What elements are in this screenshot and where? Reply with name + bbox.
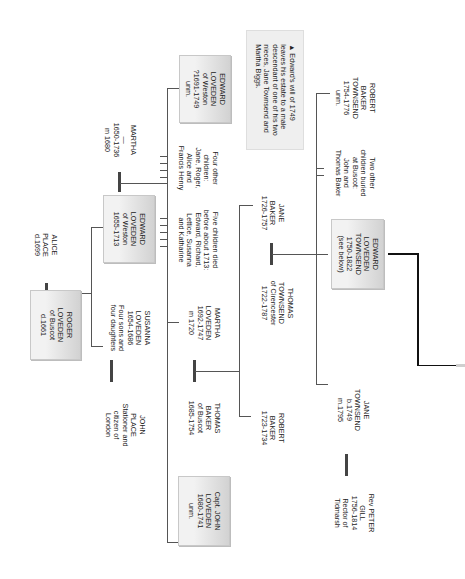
- person-edward-loveden-1655: EDWARD LOVEDEN of Weston 1655-1713: [103, 195, 155, 263]
- group-five-children: Five children died before about 1713: Ed…: [170, 200, 225, 280]
- connector: [91, 346, 103, 347]
- tick: [316, 175, 324, 176]
- person-jane-baker: JANE BAKER 1726-1757: [252, 188, 292, 238]
- person-robert-baker-townsend: ROBERT BAKER TOWNSEND 1754-1776 unm.: [330, 65, 380, 130]
- person-label: EDWARD LOVEDEN of Weston ?1691-1749 unm.: [184, 70, 227, 108]
- person-label: EDWARD LOVEDEN TOWNSEND 1750-1822 (see b…: [336, 233, 379, 275]
- tick: [160, 218, 168, 219]
- person-martha-sr: MARTHA — 1650-1736 m 1680: [100, 115, 140, 165]
- person-robert-baker: ROBERT BAKER 1723-1734: [252, 400, 292, 455]
- note-text: ▲ Edward's will of 1749 leaves his estat…: [254, 44, 297, 136]
- connector: [167, 322, 179, 323]
- person-martha-loveden: MARTHA LOVEDEN 1692-1747 m 1720: [179, 295, 229, 350]
- group-label: Four other children: Jane, Roger, Alice …: [176, 145, 219, 190]
- tick: [160, 246, 168, 247]
- person-roger-loveden: ROGER LOVEDEN of Buscot d.1661: [30, 290, 81, 360]
- connector: [91, 227, 92, 347]
- connector: [239, 205, 253, 206]
- person-label: SUSANNA LOVEDEN 1654-1686 Four sons and …: [109, 304, 152, 350]
- tick: [160, 177, 168, 178]
- person-label: Capt. JOHN LOVEDEN 1680-1741 unm.: [187, 492, 221, 531]
- tick: [160, 156, 168, 157]
- connector: [316, 384, 328, 385]
- person-susanna-loveden: SUSANNA LOVEDEN 1654-1686 Four sons and …: [104, 290, 156, 365]
- person-label: ROBERT BAKER TOWNSEND 1754-1776 unm.: [334, 77, 377, 119]
- marriage-bar-gill-townsend: [345, 454, 348, 476]
- person-thomas-townsend: THOMAS TOWNSEND of Cirencester 1722-1787: [252, 270, 302, 335]
- person-peter-gill: Rev PETER GILL 1756-1814 Rector of Tidma…: [328, 480, 380, 545]
- connector: [316, 93, 317, 385]
- connector: [167, 88, 179, 89]
- person-label: JOHN PLACE Stationer and citizen of Lond…: [104, 404, 147, 447]
- person-label: JANE TOWNSEND b.1749 m.1795: [336, 389, 370, 431]
- person-alice-place: ALICE PLACE d.1699: [30, 215, 60, 275]
- person-jane-townsend: JANE TOWNSEND b.1749 m.1795: [328, 380, 378, 440]
- person-capt-john-loveden: Capt. JOHN LOVEDEN 1680-1741 unm.: [178, 476, 230, 546]
- connector: [120, 183, 168, 184]
- connector: [316, 254, 328, 255]
- continuation-line: [417, 253, 419, 366]
- continuation-line: [388, 253, 418, 255]
- person-label: MARTHA — 1650-1736 m 1680: [103, 123, 137, 157]
- person-label: EDWARD LOVEDEN of Weston 1655-1713: [112, 212, 146, 246]
- person-label: THOMAS TOWNSEND of Cirencester 1722-1787: [260, 280, 294, 325]
- connector: [239, 205, 240, 417]
- connector: [239, 416, 251, 417]
- person-edward-loveden-townsend: EDWARD LOVEDEN TOWNSEND 1750-1822 (see b…: [331, 219, 384, 289]
- tick: [160, 239, 168, 240]
- person-label: ROGER LOVEDEN of Buscot d.1661: [38, 308, 72, 342]
- person-edward-loveden-1691: EDWARD LOVEDEN of Weston ?1691-1749 unm.: [179, 55, 231, 123]
- group-four-children: Four other children: Jane, Roger, Alice …: [170, 140, 225, 195]
- tick: [160, 225, 168, 226]
- connector: [316, 93, 330, 94]
- will-note: ▲ Edward's will of 1749 leaves his estat…: [246, 30, 304, 150]
- group-label: Two other children buried at Buscot: Joh…: [333, 149, 376, 196]
- person-label: JANE BAKER 1726-1757: [259, 196, 285, 230]
- person-john-place: JOHN PLACE Stationer and citizen of Lond…: [100, 395, 150, 455]
- connector: [195, 371, 240, 372]
- person-label: ROBERT BAKER 1723-1734: [259, 410, 285, 444]
- tick: [160, 170, 168, 171]
- tick: [160, 232, 168, 233]
- tick: [160, 163, 168, 164]
- person-label: ALICE PLACE d.1699: [32, 233, 58, 257]
- person-thomas-baker: THOMAS BAKER of Buscot 1685-1754: [179, 390, 229, 445]
- family-tree-diagram: MARTHA — 1650-1736 m 1680 ALICE PLACE d.…: [0, 0, 465, 579]
- group-two-children: Two other children buried at Buscot: Joh…: [327, 140, 382, 205]
- tick: [316, 168, 324, 169]
- marriage-bar-edward-martha: [118, 172, 121, 192]
- continuation-line: [417, 365, 457, 366]
- connector: [272, 254, 317, 255]
- group-label: Five children died before about 1713: Ed…: [176, 210, 219, 270]
- person-label: MARTHA LOVEDEN 1692-1747 m 1720: [187, 305, 221, 339]
- continuation-line-fade: [456, 364, 465, 367]
- person-label: THOMAS BAKER of Buscot 1685-1754: [187, 400, 221, 434]
- person-label: Rev PETER GILL 1756-1814 Rector of Tidma…: [333, 493, 376, 532]
